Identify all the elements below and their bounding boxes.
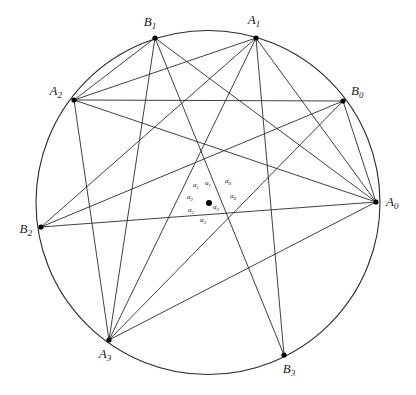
label-A1: A1 [247,12,260,29]
vertex-dot-B0 [340,98,345,103]
vertex-dot-A1 [253,35,258,40]
angle-label-alpha3-lower: α3 [200,216,207,225]
label-A3: A3 [98,346,112,363]
angle-label-alpha0-lower: α0 [230,192,237,201]
intersection-point [206,200,212,206]
chord-A0-B0 [343,101,376,202]
label-A0: A0 [385,194,399,211]
vertex-dot-B2 [38,224,43,229]
chord-A0-A2 [74,100,376,202]
label-B1: B1 [144,14,156,31]
chord-A1-B3 [256,38,284,355]
label-A2: A2 [49,83,63,100]
chord-A0-A1 [256,38,376,202]
chord-A0-A3 [109,202,376,340]
vertex-dot-B1 [152,35,157,40]
label-B3: B3 [283,361,296,378]
vertex-dot-B3 [281,352,286,357]
chord-A2-B1 [74,38,155,100]
vertex-dot-A3 [106,337,111,342]
vertex-label-layer: A0A1A2A3B0B1B2B3 [20,12,399,378]
label-B2: B2 [20,221,33,238]
label-B0: B0 [351,83,364,100]
chord-A2-A3 [74,100,109,340]
angle-label-alpha2-lower: α2 [188,206,195,215]
angle-label-alpha0-upper: α0 [225,177,232,186]
chord-A2-B0 [74,100,343,101]
center-point-layer [206,200,212,206]
chord-A1-A2 [74,38,256,100]
angle-label-alpha3-right: α3 [213,203,220,212]
angle-label-alpha1-left: α1 [193,181,199,190]
angle-label-alpha2-upper: α2 [187,193,194,202]
vertex-dot-A2 [71,97,76,102]
vertex-dot-layer [38,35,378,357]
chord-layer [41,38,376,355]
geometry-figure: α0α0α1α1α2α2α3α3 A0A1A2A3B0B1B2B3 [0,0,416,395]
chord-A1-B2 [41,38,256,227]
vertex-dot-A0 [373,199,378,204]
angle-label-alpha1-right: α1 [205,179,211,188]
